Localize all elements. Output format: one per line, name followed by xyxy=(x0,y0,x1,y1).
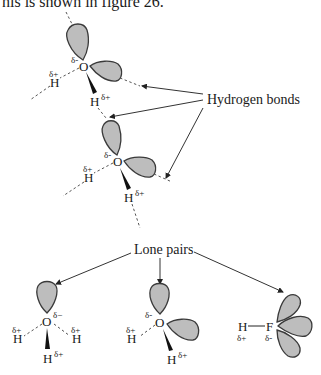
hydrogen-bond-dashed-line xyxy=(63,182,84,196)
lone-pair-lobe xyxy=(167,319,199,340)
wedge-bond xyxy=(45,328,50,349)
molecule-three-hydrogens: O δ− δ+ H δ+ H H δ+ xyxy=(12,282,81,367)
oxygen-atom: O xyxy=(79,59,88,74)
wedge-bond xyxy=(86,72,97,94)
arrow xyxy=(110,100,203,117)
fluorine-atom: F xyxy=(266,319,273,334)
arrow xyxy=(194,252,283,292)
arrow xyxy=(56,253,131,284)
hydrogen-bond-dashed-line xyxy=(30,86,50,100)
bond-dashed xyxy=(139,325,155,337)
hydrogen-bond-dashed-line xyxy=(120,78,140,86)
bond-dashed xyxy=(94,163,113,173)
hydrogen-atom: H xyxy=(50,75,59,90)
delta-plus-charge: δ+ xyxy=(101,92,110,102)
hydrogen-atom: H xyxy=(72,331,81,346)
delta-plus-charge: δ+ xyxy=(237,333,246,343)
lone-pairs-label: Lone pairs xyxy=(134,242,193,257)
lone-pair-lobe xyxy=(150,284,169,315)
molecule-hydrogen-fluoride: H F δ+ δ- xyxy=(237,295,312,357)
hydrogen-bond-dashed-line xyxy=(98,108,106,118)
hydrogen-atom: H xyxy=(13,331,22,346)
hydrogen-bond-dashed-line xyxy=(154,174,172,182)
delta-minus-charge: δ- xyxy=(104,150,111,160)
wedge-bond xyxy=(163,329,173,351)
delta-plus-charge: δ+ xyxy=(178,350,187,360)
lone-pair-lobe xyxy=(90,61,122,81)
hydrogen-atom: H xyxy=(90,94,99,109)
oxygen-atom: O xyxy=(155,315,164,330)
bond-dashed xyxy=(24,324,42,336)
water-molecule-2: O δ- δ+ H H δ+ xyxy=(63,121,172,228)
hydrogen-atom: H xyxy=(167,352,176,367)
hydrogen-bonds-label: Hydrogen bonds xyxy=(207,92,300,107)
figure-hydrogen-bonding: his is shown in figure 26. O δ- δ+ H H δ… xyxy=(0,0,321,375)
delta-minus-charge: δ- xyxy=(145,310,152,320)
oxygen-atom: O xyxy=(113,154,122,169)
delta-plus-charge: δ+ xyxy=(135,188,144,198)
lone-pair-lobe xyxy=(37,282,57,314)
lone-pairs-callout: Lone pairs xyxy=(56,242,283,292)
hydrogen-atom: H xyxy=(238,319,247,334)
bond-dashed xyxy=(60,68,79,78)
hydrogen-atom: H xyxy=(127,331,136,346)
arrow xyxy=(142,86,203,94)
delta-minus-charge: δ- xyxy=(71,55,78,65)
hydrogen-atom: H xyxy=(43,351,52,366)
oxygen-atom: O xyxy=(42,314,51,329)
bond-dashed xyxy=(54,324,70,336)
molecule-water: O δ- δ+ H H δ+ xyxy=(126,284,199,368)
wedge-bond xyxy=(120,168,131,190)
delta-minus-charge: δ- xyxy=(265,333,272,343)
water-molecule-1: O δ- δ+ H H δ+ xyxy=(30,12,140,118)
lone-pair-lobe xyxy=(124,157,156,177)
hydrogen-atom: H xyxy=(84,170,93,185)
delta-minus-charge: δ− xyxy=(53,310,62,320)
hydrogen-atom: H xyxy=(124,190,133,205)
caption-text: his is shown in figure 26. xyxy=(2,0,164,11)
delta-plus-charge: δ+ xyxy=(54,349,63,359)
arrow xyxy=(166,108,203,178)
hydrogen-bond-dashed-line xyxy=(132,204,140,228)
